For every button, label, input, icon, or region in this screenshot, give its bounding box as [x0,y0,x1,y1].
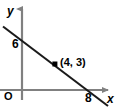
x-intercept-tick-label: 8 [85,92,92,104]
data-point-marker [52,62,57,67]
graph-canvas [0,0,118,109]
origin-label: O [4,91,13,102]
y-axis-label: y [7,5,14,17]
x-axis-label: x [107,93,114,105]
coordinate-graph-figure: y x 6 8 O (4, 3) [0,0,118,109]
data-point-label: (4, 3) [60,57,86,68]
y-intercept-tick-label: 6 [12,38,19,50]
